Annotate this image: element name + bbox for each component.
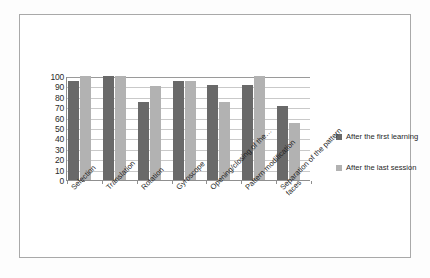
y-tick-label: 30 (55, 146, 64, 155)
x-tick-mark (241, 181, 242, 184)
bar (138, 102, 149, 180)
y-tick-label: 100 (50, 73, 64, 82)
legend-label: After the first learning (346, 133, 418, 142)
x-tick-mark (137, 181, 138, 184)
y-axis-tick-labels: 1009080706050403020100 (38, 71, 64, 187)
y-tick-label: 50 (55, 125, 64, 134)
y-tick-label: 60 (55, 115, 64, 124)
y-tick-label: 80 (55, 94, 64, 103)
y-tick-label: 20 (55, 156, 64, 165)
bar (242, 85, 253, 180)
y-tick-label: 10 (55, 167, 64, 176)
chart-legend: After the first learningAfter the last s… (336, 133, 428, 194)
y-tick-label: 0 (59, 177, 64, 186)
bar-group (67, 77, 102, 180)
y-tick-label: 90 (55, 83, 64, 92)
x-tick-mark (311, 181, 312, 184)
x-tick-mark (172, 181, 173, 184)
bar (103, 76, 114, 180)
x-tick-mark (67, 181, 68, 184)
x-tick-mark (102, 181, 103, 184)
bar-group (137, 77, 172, 180)
legend-label: After the last session (346, 164, 417, 173)
x-tick-mark (276, 181, 277, 184)
y-tick-label: 70 (55, 104, 64, 113)
y-tick-label: 40 (55, 135, 64, 144)
bar (68, 81, 79, 180)
legend-swatch-icon (336, 165, 342, 171)
bar (207, 85, 218, 180)
chart-frame: 1009080706050403020100 After the first l… (19, 14, 411, 258)
page-background: 1009080706050403020100 After the first l… (0, 0, 430, 278)
x-tick-mark (206, 181, 207, 184)
bar (173, 81, 184, 180)
legend-item[interactable]: After the first learning (336, 133, 428, 142)
legend-item[interactable]: After the last session (336, 164, 428, 173)
